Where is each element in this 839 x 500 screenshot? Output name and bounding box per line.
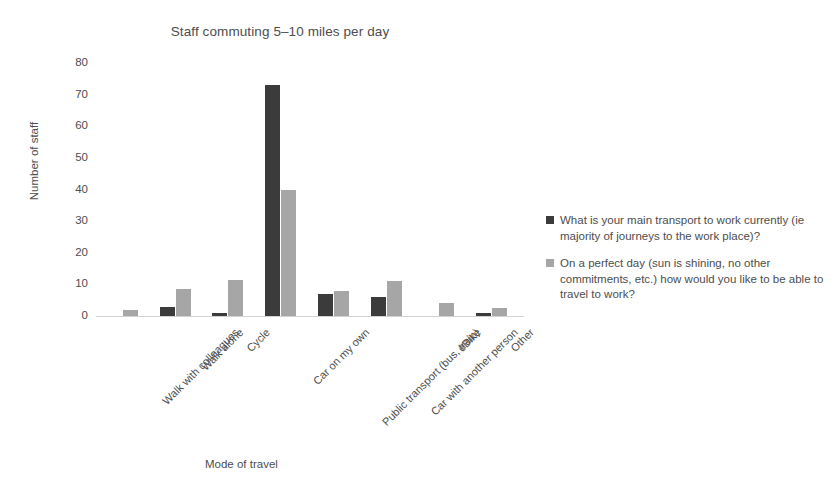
legend-item[interactable]: On a perfect day (sun is shining, no oth… (546, 256, 834, 303)
y-tick-label: 50 (48, 152, 88, 164)
legend-label: What is your main transport to work curr… (560, 213, 834, 244)
legend-label: On a perfect day (sun is shining, no oth… (560, 256, 834, 303)
x-axis-title: Mode of travel (205, 458, 278, 470)
bar-group (96, 63, 149, 316)
legend-swatch-icon (546, 259, 554, 267)
bar[interactable] (228, 280, 243, 316)
bar[interactable] (265, 85, 280, 316)
y-tick-label: 80 (48, 57, 88, 69)
bar-group (149, 63, 202, 316)
bar-group (307, 63, 360, 316)
x-tick-label: Walk alone (199, 326, 246, 373)
bar[interactable] (371, 297, 386, 316)
bar[interactable] (492, 308, 507, 316)
legend-swatch-icon (546, 216, 554, 224)
y-tick-label: 20 (48, 247, 88, 259)
bar-group (413, 63, 466, 316)
bar[interactable] (334, 291, 349, 316)
bar[interactable] (176, 289, 191, 316)
bar[interactable] (439, 303, 454, 316)
y-tick-label: 30 (48, 215, 88, 227)
y-axis-title: Number of staff (28, 81, 40, 241)
bar-group (254, 63, 307, 316)
bar[interactable] (160, 307, 175, 316)
plot-area (96, 63, 518, 316)
bar-group (202, 63, 255, 316)
y-tick-label: 40 (48, 184, 88, 196)
y-tick-label: 0 (48, 310, 88, 322)
y-axis-tick-labels: 80706050403020100 (48, 0, 88, 500)
y-tick-label: 70 (48, 89, 88, 101)
bar-group (465, 63, 518, 316)
y-tick-label: 10 (48, 279, 88, 291)
x-tick-label: eBike (455, 326, 483, 354)
bar-group (360, 63, 413, 316)
x-axis-line (96, 316, 524, 317)
chart-legend: What is your main transport to work curr… (546, 213, 834, 315)
legend-item[interactable]: What is your main transport to work curr… (546, 213, 834, 244)
y-tick-label: 60 (48, 121, 88, 133)
x-tick-label: Cycle (244, 326, 272, 354)
bar[interactable] (387, 281, 402, 316)
bar[interactable] (318, 294, 333, 316)
bar-chart: Staff commuting 5–10 miles per day Numbe… (0, 0, 839, 500)
bar[interactable] (281, 190, 296, 317)
x-tick-label: Car on my own (310, 326, 371, 387)
